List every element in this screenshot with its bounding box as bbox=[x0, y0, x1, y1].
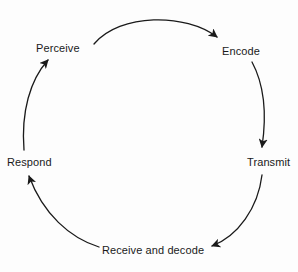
node-label-perceive: Perceive bbox=[36, 42, 80, 54]
cycle-arcs-svg bbox=[0, 0, 298, 272]
edge-respond-to-perceive bbox=[23, 60, 48, 150]
node-label-respond: Respond bbox=[7, 156, 52, 168]
edge-encode-to-transmit bbox=[252, 62, 264, 147]
node-label-receive-and-decode: Receive and decode bbox=[102, 244, 204, 256]
node-label-transmit: Transmit bbox=[247, 156, 290, 168]
edge-transmit-to-receive bbox=[212, 175, 262, 246]
edge-perceive-to-encode bbox=[94, 20, 217, 44]
cycle-diagram: Perceive Encode Transmit Receive and dec… bbox=[0, 0, 298, 272]
edge-receive-to-respond bbox=[29, 176, 99, 247]
node-label-encode: Encode bbox=[222, 45, 260, 57]
